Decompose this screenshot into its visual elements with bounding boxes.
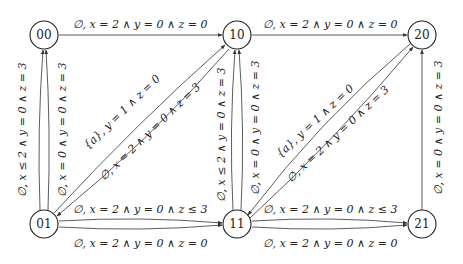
state-21-label: 21	[414, 217, 429, 231]
label-11-10-b: ∅, x = 0 ∧ y = 0 ∧ z = 3	[249, 61, 262, 196]
edge-01-11-bot	[59, 225, 222, 229]
state-01: 01	[30, 210, 58, 238]
state-11: 11	[223, 210, 251, 238]
state-00-label: 00	[36, 28, 51, 42]
label-10-01: ∅, x = 2 ∧ y = 0 ∧ z = 3	[97, 80, 203, 183]
state-01-label: 01	[36, 217, 51, 231]
label-01-11-top: ∅, x = 2 ∧ y = 0 ∧ z ≤ 3	[73, 203, 208, 216]
label-11-10-a: ∅, x ≤ 2 ∧ y = 0 ∧ z = 3	[215, 68, 228, 203]
state-21: 21	[408, 210, 436, 238]
edge-01-11-top	[59, 219, 222, 223]
label-21-20: ∅, x = 0 ∧ y = 0 ∧ z = 3	[432, 61, 445, 196]
label-01-00-b: ∅, x = 0 ∧ y = 0 ∧ z = 3	[56, 63, 69, 198]
edge-01-00-b	[46, 50, 49, 210]
edge-01-10	[54, 45, 225, 213]
automaton-diagram: ∅, x = 2 ∧ y = 0 ∧ z = 0 ∅, x = 2 ∧ y = …	[0, 0, 463, 264]
state-00: 00	[30, 21, 58, 49]
state-20-label: 20	[414, 28, 429, 42]
edge-20-11	[248, 44, 410, 215]
state-10-label: 10	[229, 28, 244, 42]
label-10-20: ∅, x = 2 ∧ y = 0 ∧ z = 0	[263, 18, 398, 31]
state-20: 20	[408, 21, 436, 49]
edge-01-00-a	[39, 50, 43, 210]
label-01-11-bot: ∅, x = 2 ∧ y = 0 ∧ z = 0	[73, 237, 208, 250]
state-10: 10	[223, 21, 251, 49]
edge-11-10-b	[239, 50, 243, 210]
label-11-21-top: ∅, x = 2 ∧ y = 0 ∧ z ≤ 3	[263, 203, 398, 216]
label-11-21-bot: ∅, x = 2 ∧ y = 0 ∧ z = 0	[263, 237, 398, 250]
edge-11-21-bot	[252, 225, 407, 229]
edge-11-21-top	[252, 219, 407, 223]
label-00-10: ∅, x = 2 ∧ y = 0 ∧ z = 0	[73, 18, 208, 31]
edge-11-10-a	[231, 50, 235, 210]
label-01-00-a: ∅, x ≤ 2 ∧ y = 0 ∧ z = 3	[16, 63, 29, 198]
state-11-label: 11	[229, 217, 244, 231]
